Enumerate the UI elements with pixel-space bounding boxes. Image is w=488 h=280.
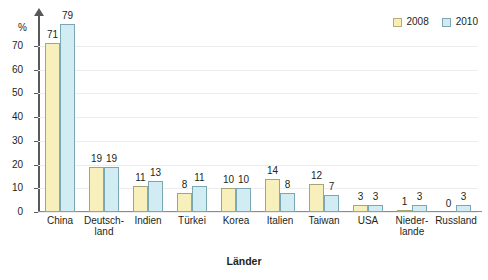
bar-value-label: 3 xyxy=(450,192,477,202)
bar-indien-2010[interactable] xyxy=(148,181,163,212)
bar-group: 1113 xyxy=(133,22,163,212)
bar-value-label: 19 xyxy=(98,154,125,164)
bar-türkei-2010[interactable] xyxy=(192,186,207,212)
bar-deutsch-land-2008[interactable] xyxy=(89,167,104,212)
y-axis-tick-label: 0 xyxy=(0,207,23,217)
bar-group: 1010 xyxy=(221,22,251,212)
bar-nieder-lande-2008[interactable] xyxy=(397,210,412,212)
y-axis-tick-mark xyxy=(34,141,38,142)
bar-taiwan-2010[interactable] xyxy=(324,195,339,212)
bar-value-label: 79 xyxy=(54,11,81,21)
bar-italien-2010[interactable] xyxy=(280,193,295,212)
y-axis-tick-label: 20 xyxy=(0,160,23,170)
bar-group: 13 xyxy=(397,22,427,212)
y-axis-tick-mark xyxy=(34,93,38,94)
x-axis-title: Länder xyxy=(0,255,488,267)
x-axis-category-label: Russland xyxy=(428,215,484,226)
plot-area: 0102030405060707179191911138111010148127… xyxy=(38,22,478,212)
bar-value-label: 8 xyxy=(274,180,301,190)
bar-deutsch-land-2010[interactable] xyxy=(104,167,119,212)
bar-usa-2010[interactable] xyxy=(368,205,383,212)
y-axis-tick-mark xyxy=(34,212,38,213)
bar-türkei-2008[interactable] xyxy=(177,193,192,212)
bar-group: 148 xyxy=(265,22,295,212)
bar-value-label: 7 xyxy=(318,182,345,192)
gridline xyxy=(38,212,478,213)
y-axis-tick-mark xyxy=(34,46,38,47)
bar-value-label: 10 xyxy=(230,175,257,185)
bar-group: 811 xyxy=(177,22,207,212)
bar-russland-2010[interactable] xyxy=(456,205,471,212)
bar-usa-2008[interactable] xyxy=(353,205,368,212)
y-axis-tick-label: 40 xyxy=(0,112,23,122)
bar-group: 127 xyxy=(309,22,339,212)
bar-value-label: 11 xyxy=(186,173,213,183)
y-axis-tick-label: 50 xyxy=(0,88,23,98)
bar-value-label: 12 xyxy=(303,171,330,181)
y-axis-tick-mark xyxy=(34,188,38,189)
bar-value-label: 14 xyxy=(259,166,286,176)
bar-china-2008[interactable] xyxy=(45,43,60,212)
y-axis-tick-mark xyxy=(34,165,38,166)
y-axis-tick-label: 10 xyxy=(0,183,23,193)
bar-group: 33 xyxy=(353,22,383,212)
bar-value-label: 3 xyxy=(406,192,433,202)
bar-group: 1919 xyxy=(89,22,119,212)
bar-value-label: 3 xyxy=(362,192,389,202)
y-axis-tick-label: 60 xyxy=(0,65,23,75)
bar-indien-2008[interactable] xyxy=(133,186,148,212)
bar-value-label: 13 xyxy=(142,168,169,178)
bar-nieder-lande-2010[interactable] xyxy=(412,205,427,212)
bar-group: 7179 xyxy=(45,22,75,212)
bar-korea-2008[interactable] xyxy=(221,188,236,212)
bar-group: 03 xyxy=(441,22,471,212)
bar-korea-2010[interactable] xyxy=(236,188,251,212)
y-axis-tick-label: 30 xyxy=(0,136,23,146)
y-axis-tick-mark xyxy=(34,70,38,71)
bar-china-2010[interactable] xyxy=(60,24,75,212)
bar-chart: 20082010 % 01020304050607071791919111381… xyxy=(0,0,488,280)
y-axis-unit-label: % xyxy=(18,22,27,33)
y-axis-tick-label: 70 xyxy=(0,41,23,51)
y-axis-tick-mark xyxy=(34,117,38,118)
